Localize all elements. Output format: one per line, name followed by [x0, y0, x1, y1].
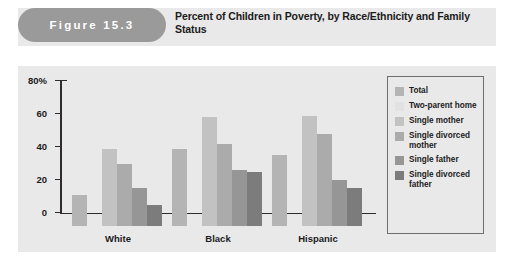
x-axis-category-label: White [72, 233, 164, 244]
legend-item-label: Single father [409, 155, 459, 165]
plot-area: 020406080% WhiteBlackHispanic [60, 80, 376, 228]
y-axis-tick-label: 80% [28, 75, 47, 86]
bar [232, 170, 247, 226]
legend-swatch-icon [395, 102, 404, 111]
bar [202, 117, 217, 226]
bar [172, 149, 187, 227]
legend-item: Single mother [395, 116, 477, 126]
bar [72, 195, 87, 226]
x-axis-category-label: Black [172, 233, 264, 244]
bar-group: Hispanic [272, 95, 364, 226]
legend-swatch-icon [395, 117, 404, 126]
legend-item-label: Total [409, 86, 428, 96]
legend-item-label: Single divorced father [409, 170, 477, 189]
legend-swatch-icon [395, 156, 404, 165]
chart-panel: 020406080% WhiteBlackHispanic TotalTwo-p… [18, 66, 496, 252]
y-axis-tick-label: 20 [36, 174, 47, 185]
legend-item: Total [395, 86, 477, 96]
chart-legend: TotalTwo-parent homeSingle motherSingle … [387, 76, 484, 234]
bar [117, 164, 132, 227]
figure-container: Figure 15.3 Percent of Children in Pover… [0, 0, 507, 276]
legend-item: Single divorced father [395, 170, 477, 189]
legend-swatch-icon [395, 171, 404, 180]
x-axis-category-label: Hispanic [272, 233, 364, 244]
legend-item-label: Two-parent home [409, 101, 477, 111]
legend-swatch-icon [395, 132, 404, 141]
bar [272, 155, 287, 226]
bar-group: Black [172, 95, 264, 226]
legend-item-label: Single divorced mother [409, 131, 477, 150]
legend-item-label: Single mother [409, 116, 464, 126]
y-axis-tick-label: 60 [36, 108, 47, 119]
bar [347, 188, 362, 226]
bar [217, 144, 232, 227]
y-axis-tick: 80% [55, 80, 61, 81]
legend-item: Single divorced mother [395, 131, 477, 150]
legend-item: Two-parent home [395, 101, 477, 111]
bar-group: White [72, 95, 164, 226]
y-axis-tick: 60 [55, 113, 61, 114]
y-axis-top-cap [60, 80, 67, 81]
bar [147, 205, 162, 226]
bar [317, 134, 332, 226]
bar [247, 172, 262, 226]
legend-item: Single father [395, 155, 477, 165]
bar [132, 188, 147, 226]
y-axis-tick: 20 [55, 179, 61, 180]
y-axis-tick-label: 0 [42, 207, 47, 218]
y-axis-tick: 0 [55, 212, 61, 213]
bar [302, 116, 317, 227]
figure-title: Percent of Children in Poverty, by Race/… [175, 10, 475, 36]
y-axis-tick-label: 40 [36, 141, 47, 152]
legend-swatch-icon [395, 87, 404, 96]
bar [332, 180, 347, 226]
figure-number-badge: Figure 15.3 [18, 8, 166, 42]
bar [102, 149, 117, 227]
y-axis-tick: 40 [55, 146, 61, 147]
